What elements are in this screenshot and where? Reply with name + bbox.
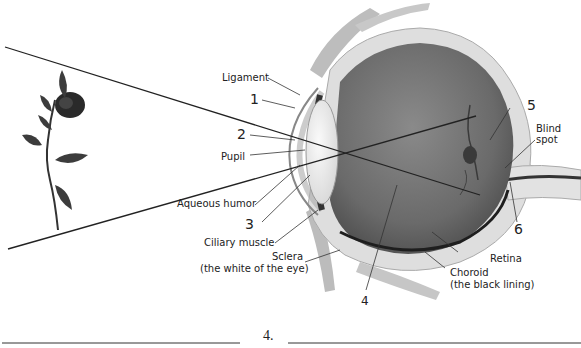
label-sclera-note: (the white of the eye) [200, 263, 309, 274]
eye-diagram: Ligament 1 2 Pupil Aqueous humor 3 Cilia… [0, 0, 581, 348]
label-ciliary-muscle: Ciliary muscle [204, 237, 274, 248]
answer-item-number: 4. [263, 328, 274, 344]
eye-diagram-artwork [0, 0, 581, 348]
label-number-6: 6 [514, 222, 523, 236]
label-number-5: 5 [527, 98, 536, 112]
label-pupil: Pupil [221, 151, 245, 162]
label-blind-spot-2: spot [536, 134, 558, 145]
rose-icon [22, 70, 88, 230]
label-retina: Retina [490, 253, 522, 264]
label-number-1: 1 [250, 92, 259, 106]
label-blind-spot: Blind [536, 123, 561, 134]
label-number-3: 3 [245, 217, 254, 231]
label-sclera: Sclera [272, 251, 303, 262]
label-aqueous-humor: Aqueous humor [177, 198, 256, 209]
label-choroid: Choroid [450, 267, 489, 278]
lens [306, 100, 338, 204]
optic-nerve [505, 165, 581, 200]
label-number-2: 2 [237, 127, 246, 141]
label-choroid-note: (the black lining) [450, 279, 534, 290]
label-number-4: 4 [361, 294, 369, 308]
label-ligament: Ligament [222, 72, 269, 83]
